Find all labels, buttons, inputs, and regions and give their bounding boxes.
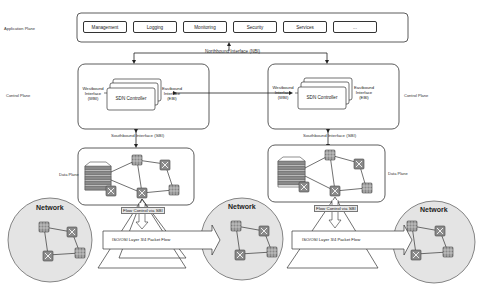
app-logging: Logging	[133, 21, 177, 33]
packet-flow-label-2: ISO/OSI Layer 3/4 Packet Flow	[302, 237, 360, 242]
westbound-interface-left: Westbound Interface (WBI)	[78, 86, 108, 101]
app-more: ...	[333, 21, 377, 33]
flow-control-label-right: Flow Control via SBI	[314, 205, 358, 212]
network-label-1: Network	[36, 204, 64, 211]
app-services: Services	[283, 21, 327, 33]
sdn-controller-right: SDN Controller	[298, 95, 346, 100]
westbound-interface-right: Westbound Interface (WBI)	[268, 85, 298, 100]
southbound-interface-label-right: Southbound Interface (SBI)	[303, 133, 356, 138]
app-monitoring: Monitoring	[183, 21, 227, 33]
southbound-interface-label-left: Southbound Interface (SBI)	[111, 133, 164, 138]
packet-flow-label-1: ISO/OSI Layer 3/4 Packet Flow	[112, 237, 170, 242]
app-security: Security	[233, 21, 277, 33]
data-plane-label-right: Data Plane	[388, 171, 408, 176]
eastbound-interface-left: Eastbound Interface (EBI)	[158, 86, 186, 101]
data-plane-label-left: Data Plane	[59, 172, 79, 177]
app-management: Management	[83, 21, 127, 33]
flow-control-label-left: Flow Control via SBI	[121, 207, 165, 214]
northbound-interface-label: Northbound Interface (NBI)	[205, 49, 260, 54]
sdn-controller-left: SDN Controller	[107, 96, 155, 101]
network-label-2: Network	[228, 203, 256, 210]
control-plane-label-left: Control Plane	[6, 93, 30, 98]
diagram-canvas	[0, 0, 488, 297]
control-plane-label-right: Control Plane	[404, 93, 428, 98]
application-plane-label: Application Plane	[4, 26, 35, 31]
eastbound-interface-right: Eastbound Interface (EBI)	[350, 85, 378, 100]
network-label-3: Network	[420, 206, 448, 213]
